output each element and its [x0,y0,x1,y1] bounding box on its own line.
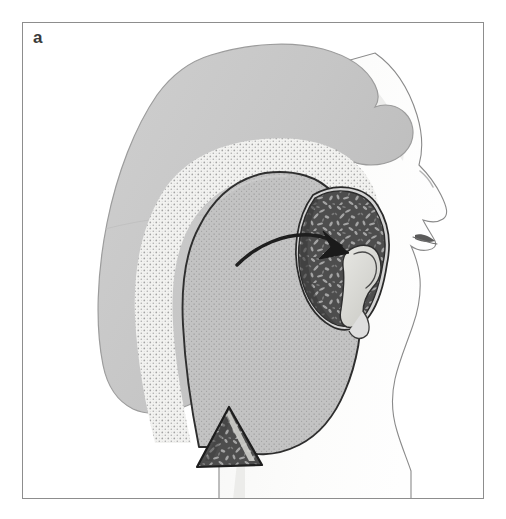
figure-frame: a [22,22,484,499]
figure-panel-a: a [0,0,506,519]
anatomical-illustration [23,23,484,499]
panel-label: a [33,29,42,46]
